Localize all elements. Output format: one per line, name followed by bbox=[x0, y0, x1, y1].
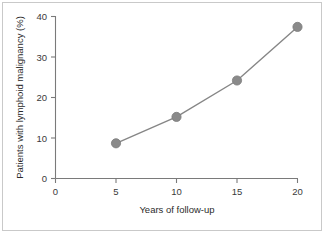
data-point-marker bbox=[232, 76, 241, 85]
y-tick-label-30: 30 bbox=[36, 52, 47, 63]
series-line-path bbox=[116, 27, 298, 143]
x-tick-label-10: 10 bbox=[171, 186, 182, 197]
x-tick-label-5: 5 bbox=[113, 186, 118, 197]
data-point-marker bbox=[172, 112, 181, 121]
y-axis-title: Patients with lymphoid malignancy (%) bbox=[14, 16, 25, 179]
data-point-marker bbox=[293, 22, 302, 31]
y-tick-label-10: 10 bbox=[36, 133, 47, 144]
x-tick-label-0: 0 bbox=[53, 186, 58, 197]
y-tick-label-40: 40 bbox=[36, 11, 47, 22]
x-axis-title: Years of follow-up bbox=[139, 204, 214, 215]
y-tick-label-20: 20 bbox=[36, 92, 47, 103]
data-point-marker bbox=[111, 139, 120, 148]
chart-figure: 40 30 20 10 0 0 5 10 15 20 Years of foll… bbox=[0, 0, 326, 235]
line-chart-plot: 40 30 20 10 0 0 5 10 15 20 Years of foll… bbox=[0, 0, 326, 235]
data-series bbox=[111, 22, 302, 148]
x-tick-label-15: 15 bbox=[232, 186, 243, 197]
x-tick-label-20: 20 bbox=[292, 186, 303, 197]
y-tick-label-0: 0 bbox=[42, 173, 47, 184]
